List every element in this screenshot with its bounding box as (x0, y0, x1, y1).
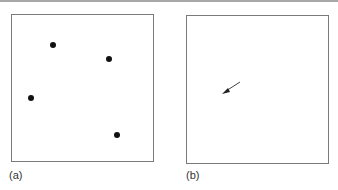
arrow-icon (0, 0, 338, 190)
panel-b-label: (b) (186, 169, 199, 181)
